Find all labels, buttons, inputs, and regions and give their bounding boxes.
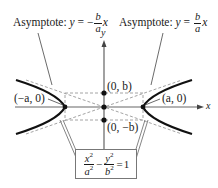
vertex-left-text: (−a, 0) (14, 92, 45, 104)
exponent: 2 (90, 151, 94, 159)
fraction-denominator: a (95, 24, 100, 35)
equation-rhs: 1 (124, 158, 130, 170)
exponent: 2 (110, 151, 114, 159)
vertex-right-text: (a, 0) (162, 92, 186, 104)
x-axis-arrow-icon (197, 105, 204, 110)
equation-x-term: x2 a2 (84, 152, 94, 177)
asymptote-left-eq: = − (75, 16, 94, 28)
y-axis-arrow-icon (102, 40, 107, 47)
asymptote-right-fraction: ba (194, 12, 201, 34)
asymptote-right-label: Asymptote: y = bax (119, 12, 207, 34)
y-axis-label: y (101, 28, 105, 38)
asymptote-right-eq: = (181, 16, 193, 28)
asymptote-left-prefix: Asymptote: (13, 16, 70, 28)
vertex-left-label: (−a, 0) (14, 93, 45, 105)
point-top (101, 90, 106, 95)
equation-equals: = (116, 158, 122, 170)
equation-minus: − (96, 158, 102, 170)
x-axis-label: x (206, 101, 210, 111)
point-bottom-text: (0, −b) (107, 121, 138, 133)
point-top-text: (0, b) (107, 80, 132, 92)
vertex-right (141, 105, 146, 110)
exponent: 2 (110, 164, 114, 172)
asymptote-right-prefix: Asymptote: (119, 16, 176, 28)
equation-box: x2 a2 − y2 b2 = 1 (75, 149, 137, 179)
point-origin (101, 104, 106, 109)
fraction-numerator: b (94, 12, 101, 24)
equation-y-term: y2 b2 (104, 152, 114, 177)
equation-b-denominator: b2 (105, 165, 114, 177)
fraction-denominator: a (195, 24, 200, 35)
equation-a-denominator: a2 (85, 165, 94, 177)
vertex-left (63, 105, 68, 110)
asymptote-left-label: Asymptote: y = −bax (13, 12, 108, 34)
point-bottom (101, 117, 106, 122)
fraction-numerator: b (194, 12, 201, 24)
asymptote-right-x: x (202, 16, 207, 28)
point-bottom-label: (0, −b) (107, 122, 138, 134)
vertex-right-label: (a, 0) (162, 93, 186, 105)
asymptote-left-x: x (103, 16, 108, 28)
asymptote-left-leader (38, 33, 52, 85)
exponent: 2 (90, 164, 94, 172)
asymptote-right-leader (151, 33, 163, 85)
point-top-label: (0, b) (107, 81, 132, 93)
